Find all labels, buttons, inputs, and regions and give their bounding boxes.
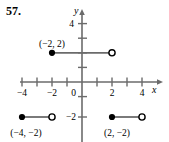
label-neg4-neg2: (−4, −2) (10, 128, 41, 139)
label-2-neg2: (2, −2) (104, 128, 130, 139)
coordinate-plane: y x −4 −2 2 4 4 −2 0 (−2, 2) (−4, −2) (2… (0, 0, 169, 142)
figure-container: 57. y x (0, 0, 169, 142)
x-tick-label-neg2: −2 (47, 88, 57, 98)
x-tick-label-neg4: −4 (17, 88, 27, 98)
label-neg2-2: (−2, 2) (39, 39, 65, 50)
origin-label: 0 (71, 88, 76, 98)
open-endpoint-neg2-neg2 (49, 114, 55, 120)
y-tick-label-neg2: −2 (66, 112, 76, 122)
y-axis-arrow-icon (79, 9, 85, 15)
closed-endpoint-2-neg2 (109, 114, 115, 120)
x-axis-label: x (151, 84, 157, 95)
x-tick-label-4: 4 (140, 88, 145, 98)
open-endpoint-4-neg2 (139, 114, 145, 120)
x-axis-arrow-icon (157, 79, 163, 85)
closed-endpoint-neg4-neg2 (19, 114, 25, 120)
open-endpoint-2-2 (109, 50, 115, 56)
closed-endpoint-neg2-2 (49, 50, 55, 56)
y-tick-label-4: 4 (69, 19, 74, 29)
x-tick-label-2: 2 (110, 88, 115, 98)
y-axis-label: y (73, 5, 79, 16)
